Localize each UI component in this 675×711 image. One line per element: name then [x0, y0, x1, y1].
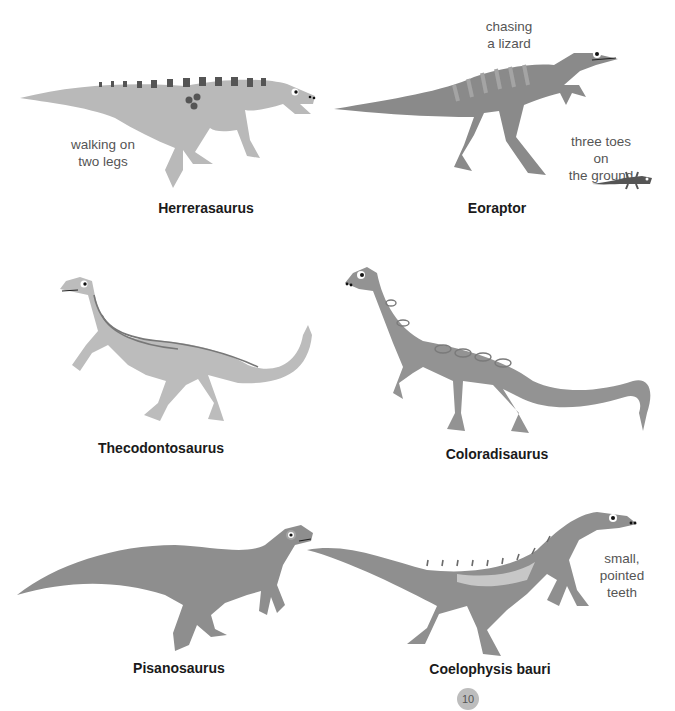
thecodontosaurus-label: Thecodontosaurus — [98, 440, 224, 456]
herrerasaurus-label: Herrerasaurus — [158, 200, 254, 216]
herrerasaurus-illustration — [15, 70, 320, 195]
coloradisaurus-illustration — [343, 263, 658, 433]
herrerasaurus-note: walking on two legs — [71, 136, 135, 170]
coelophysis-label: Coelophysis bauri — [429, 661, 550, 677]
eoraptor-note-toes: three toes on the ground — [564, 133, 638, 184]
thecodontosaurus-illustration — [58, 275, 313, 435]
page-number: 10 — [457, 688, 479, 710]
book-page: walking on two legs Herrerasaurus chasin… — [0, 0, 675, 711]
coloradisaurus-label: Coloradisaurus — [446, 446, 549, 462]
eoraptor-label: Eoraptor — [468, 200, 526, 216]
pisanosaurus-label: Pisanosaurus — [133, 660, 225, 676]
coelophysis-note: small, pointed teeth — [596, 550, 649, 601]
eoraptor-note-lizard: chasing a lizard — [486, 18, 533, 52]
pisanosaurus-illustration — [15, 505, 315, 655]
